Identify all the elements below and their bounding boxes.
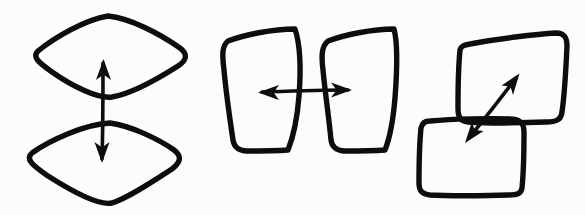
sketch-canvas [0,0,585,215]
sketch-svg [0,0,585,215]
paper-background [0,0,585,215]
vertical-arrow-shaft [102,63,103,159]
